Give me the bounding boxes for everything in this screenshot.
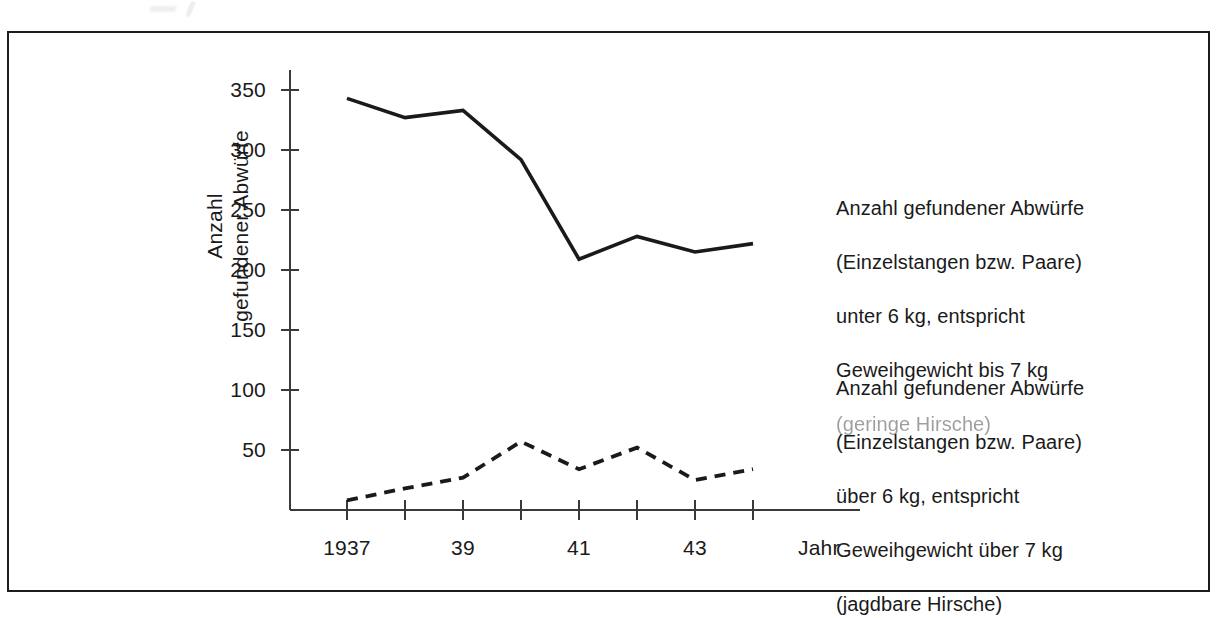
legend-entry-ueber-6kg: Anzahl gefundener Abwürfe (Einzelstangen… [836, 348, 1084, 618]
y-tick-label: 100 [196, 379, 266, 400]
y-tick-label: 50 [196, 439, 266, 460]
x-tick-label: 41 [529, 537, 629, 558]
x-tick-label: 43 [645, 537, 745, 558]
legend-lower-line-4: Geweihgewicht über 7 kg [836, 539, 1063, 561]
y-axis-title: Anzahl gefundener Abwürfe [202, 106, 254, 346]
legend-lower-line-1: Anzahl gefundener Abwürfe [836, 377, 1084, 399]
legend-lower-line-3: über 6 kg, entspricht [836, 485, 1019, 507]
legend-upper-line-2: (Einzelstangen bzw. Paare) [836, 251, 1082, 273]
legend-lower-line-2: (Einzelstangen bzw. Paare) [836, 431, 1082, 453]
legend-lower-line-5: (jagdbare Hirsche) [836, 593, 1002, 615]
x-tick-label: 39 [413, 537, 513, 558]
x-tick-label: 1937 [297, 537, 397, 558]
legend-upper-line-1: Anzahl gefundener Abwürfe [836, 197, 1084, 219]
y-tick-label: 350 [196, 79, 266, 100]
series-line-ueber-6kg [347, 442, 753, 501]
series-line-unter-6kg [347, 98, 753, 259]
legend-upper-line-3: unter 6 kg, entspricht [836, 305, 1025, 327]
x-axis-title: Jahr [798, 537, 840, 558]
